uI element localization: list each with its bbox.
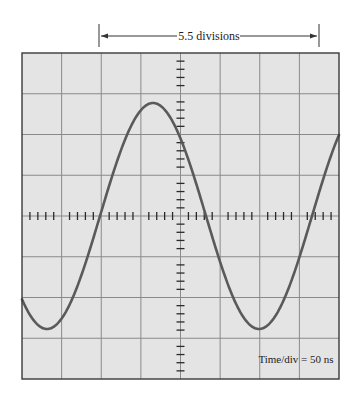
time-per-division-label: Time/div = 50 ns — [258, 353, 333, 365]
measurement-bracket: 5.5 divisions — [99, 24, 319, 47]
divisions-label: 5.5 divisions — [178, 29, 240, 43]
scope-screen: Time/div = 50 ns — [22, 53, 339, 379]
arrow-right-icon — [310, 34, 317, 39]
oscilloscope-diagram: 5.5 divisions Time/div = 50 ns — [0, 0, 357, 400]
arrow-left-icon — [101, 34, 108, 39]
